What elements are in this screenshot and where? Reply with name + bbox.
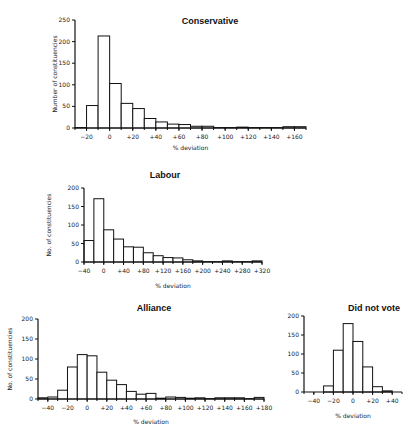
y-tick-label: 150 [68,203,80,210]
x-tick-label: +20 [366,397,379,404]
y-tick-label: 150 [22,335,34,342]
y-tick-label: 100 [288,350,300,357]
x-tick-label: +40 [386,397,399,404]
histogram-bar [87,356,97,399]
histogram-bar [373,387,383,392]
x-tick-label: +40 [150,133,163,140]
y-axis-label: Number of constituencies [51,35,58,112]
x-tick-label: +120 [240,133,257,140]
histogram-bar [153,256,163,262]
histogram-bar [87,106,99,128]
y-tick-label: 100 [68,221,80,228]
x-tick-label: 0 [108,133,112,140]
histogram-bar [146,393,156,399]
x-tick-label: +60 [140,404,153,411]
y-tick-label: 50 [291,369,299,376]
histogram-bar [84,241,94,262]
y-axis-label: No. of constituencies [45,194,52,257]
x-tick-label: +80 [137,267,150,274]
y-tick-label: 0 [66,124,70,131]
histogram-bar [363,367,373,392]
x-tick-label: +320 [254,267,271,274]
x-tick-label: +40 [117,267,130,274]
histogram-bar [77,355,87,399]
chart-title: Did not vote [348,303,400,313]
x-axis-label: % deviation [335,412,371,419]
x-tick-label: +240 [214,267,231,274]
histogram-bar [121,103,133,128]
chart-alliance: Alliance050100150200−40−200+20+40+60+80+… [0,295,300,436]
y-tick-label: 0 [29,395,33,402]
x-tick-label: +100 [177,404,194,411]
histogram-bar [144,118,156,128]
chart-svg: Alliance050100150200−40−200+20+40+60+80+… [0,295,300,436]
histogram-bar [124,247,134,262]
histogram-bar [110,84,122,128]
histogram-bar [163,258,173,262]
histogram-bar [333,350,343,392]
x-tick-label: +140 [263,133,280,140]
x-tick-label: +80 [196,133,209,140]
x-tick-label: +120 [197,404,214,411]
x-tick-label: +140 [216,404,233,411]
x-axis-label: % deviation [155,282,191,289]
chart-conservative: Conservative050100150200250−200+20+40+60… [0,0,414,140]
histogram-bar [104,230,114,262]
y-tick-label: 200 [288,312,300,319]
x-tick-label: +40 [120,404,133,411]
x-tick-label: 0 [85,404,89,411]
y-tick-label: 100 [59,81,71,88]
x-tick-label: +280 [234,267,251,274]
x-tick-label: 0 [351,397,355,404]
chart-svg: Conservative050100150200250−200+20+40+60… [0,0,414,140]
x-tick-label: −40 [41,404,54,411]
y-tick-label: 50 [62,102,70,109]
histogram-bar [107,380,117,399]
x-tick-label: +160 [236,404,253,411]
y-tick-label: 150 [59,59,71,66]
x-tick-label: −20 [80,133,93,140]
y-tick-label: 50 [25,375,33,382]
histogram-bar [114,239,124,262]
histogram-bar [353,341,363,392]
chart-title: Alliance [137,303,172,313]
histogram-bar [173,258,183,262]
x-tick-label: −40 [307,397,320,404]
x-tick-label: +100 [217,133,234,140]
histogram-bar [133,247,143,262]
chart-did-not-vote: Did not vote050100150200−40−200+20+40% d… [300,295,414,436]
x-tick-label: 0 [102,267,106,274]
histogram-bar [67,367,77,399]
histogram-bar [324,386,334,392]
y-tick-label: 100 [22,355,34,362]
x-tick-label: −40 [78,267,91,274]
x-axis-label: % deviation [133,418,169,425]
x-tick-label: −20 [327,397,340,404]
y-tick-label: 0 [295,388,299,395]
histogram-bar [343,324,353,392]
histogram-bar [94,199,104,262]
x-tick-label: +160 [175,267,192,274]
y-tick-label: 250 [59,16,71,23]
chart-labour: Labour050100150200−400+40+80+120+160+200… [0,140,414,295]
histogram-bar [143,253,153,262]
x-tick-label: +200 [194,267,211,274]
histogram-bar [156,122,168,128]
x-tick-label: +60 [173,133,186,140]
chart-svg: Did not vote050100150200−40−200+20+40% d… [300,295,414,436]
y-axis-label: No. of constituencies [6,328,13,391]
histogram-bar [98,36,110,128]
y-tick-label: 200 [68,184,80,191]
x-tick-label: +180 [256,404,273,411]
x-tick-label: +20 [100,404,113,411]
chart-svg: Labour050100150200−400+40+80+120+160+200… [0,140,414,295]
y-tick-label: 50 [71,240,79,247]
chart-title: Labour [150,170,181,180]
histogram-bar [136,394,146,399]
histogram-bar [97,372,107,399]
y-tick-label: 200 [59,38,71,45]
y-tick-label: 200 [22,315,34,322]
histogram-bar [117,385,127,399]
histogram-bar [126,391,136,399]
x-tick-label: +20 [126,133,139,140]
